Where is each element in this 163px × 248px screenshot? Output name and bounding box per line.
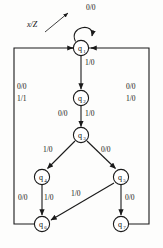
edge-label-q6-to-q1-one: 1/1 (17, 94, 26, 103)
state-label-q3: q (78, 131, 82, 140)
edge-label-q6-to-q1-zero: 0/0 (17, 82, 26, 91)
state-label-q6: q (39, 220, 43, 229)
state-label-q4: q (39, 173, 43, 182)
edge-label-q4-to-q6-zero: 0/0 (18, 193, 27, 202)
state-label-q1: q (78, 44, 82, 53)
edge-label-q1-self: 0/0 (86, 3, 95, 12)
legend-pointer-arrow (45, 13, 68, 32)
edge-label-q4-to-q6-one: 1/0 (44, 193, 53, 202)
edge-label-q2-to-q3-one: 1/0 (85, 109, 94, 118)
state-diagram: q 1 q 2 q 3 q 4 q 5 q 6 q 7 x/Z 0/0 1/0 … (0, 0, 163, 248)
edge-label-q7-to-q1-one: 1/0 (126, 94, 135, 103)
edge-q5-to-q6 (51, 183, 114, 220)
edge-label-q5-to-q6: 1/0 (71, 189, 80, 198)
edge-label-q1-to-q2: 1/0 (85, 58, 94, 67)
edge-label-q3-to-q4: 1/0 (43, 145, 52, 154)
edge-q1-self-loop (74, 27, 92, 41)
state-diagram-canvas: q 1 q 2 q 3 q 4 q 5 q 6 q 7 (0, 0, 163, 248)
edge-label-q3-to-q5: 0/0 (101, 145, 110, 154)
state-label-q5: q (118, 173, 122, 182)
legend-notation-label: x/Z (27, 20, 37, 29)
state-label-q7: q (118, 220, 122, 229)
edge-label-q2-to-q3-zero: 0/0 (58, 109, 67, 118)
edge-label-q7-to-q1-zero: 0/0 (126, 82, 135, 91)
edge-label-q5-to-q7: 0/0 (125, 193, 134, 202)
state-label-q2: q (78, 94, 82, 103)
